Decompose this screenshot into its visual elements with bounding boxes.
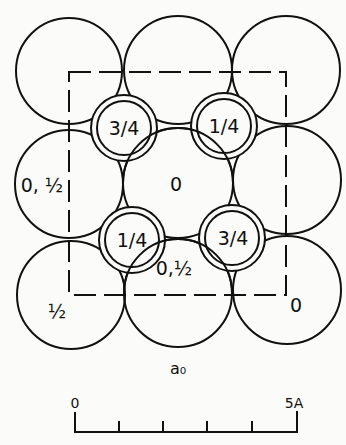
label-1-4-bottom: 1/4 xyxy=(117,229,148,251)
label-3-4-bottom: 3/4 xyxy=(218,227,249,249)
label-bottom-middle: 0,½ xyxy=(156,257,193,279)
label-bottom-right: 0 xyxy=(290,294,302,316)
label-bottom-left: ½ xyxy=(48,300,66,322)
label-3-4-top: 3/4 xyxy=(109,117,140,139)
crystal-structure-diagram: 3/4 1/4 1/4 3/4 0, ½ 0 ½ 0,½ 0 a₀ 0 5A xyxy=(0,0,346,445)
label-center: 0 xyxy=(170,173,182,195)
label-1-4-top: 1/4 xyxy=(209,115,240,137)
scale-start-label: 0 xyxy=(71,395,80,411)
scale-bar: 0 5A xyxy=(71,395,304,432)
unit-cell-label: a₀ xyxy=(170,359,186,378)
label-mid-left: 0, ½ xyxy=(21,174,64,196)
scale-bar-line xyxy=(75,411,297,432)
scale-end-label: 5A xyxy=(285,395,304,411)
